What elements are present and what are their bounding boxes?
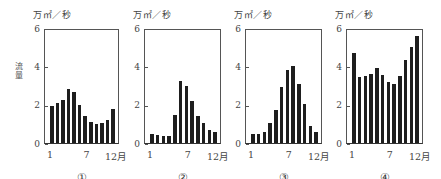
bar-month-7 [83, 116, 87, 143]
x-tick-label: 7 [387, 149, 393, 160]
x-tick-label: 12月 [207, 149, 229, 163]
x-tick-label: 1 [147, 149, 153, 160]
bar-month-3 [61, 100, 65, 143]
bar-month-9 [196, 116, 200, 143]
bar-month-8 [190, 101, 194, 143]
y-tick-label: 6 [229, 25, 241, 34]
bar-group [352, 30, 419, 143]
plot-area [44, 29, 119, 144]
bar-month-1 [352, 53, 356, 143]
bar-month-11 [309, 126, 313, 143]
bar-month-3 [263, 132, 267, 143]
bar-month-10 [404, 60, 408, 143]
bar-month-7 [185, 86, 189, 143]
y-tick-label: 0 [128, 140, 140, 149]
unit-label: 万㎡／秒 [335, 8, 373, 21]
bar-month-4 [268, 123, 272, 143]
y-tick-mark [246, 144, 249, 145]
bar-month-8 [392, 84, 396, 144]
bar-month-9 [398, 76, 402, 143]
y-tick-label: 4 [330, 63, 342, 72]
y-tick-label: 2 [28, 101, 40, 110]
unit-label: 万㎡／秒 [234, 8, 272, 21]
y-tick-mark [45, 144, 48, 145]
bar-month-2 [56, 103, 60, 143]
bar-month-5 [72, 92, 76, 143]
y-tick-mark [347, 144, 350, 145]
unit-label: 万㎡／秒 [133, 8, 171, 21]
panel-number: ① [77, 171, 87, 179]
y-tick-label: 2 [229, 101, 241, 110]
bar-month-2 [358, 77, 362, 143]
y-tick-label: 2 [128, 101, 140, 110]
y-tick-label: 4 [128, 63, 140, 72]
bar-month-12 [111, 109, 115, 143]
bar-month-6 [179, 81, 183, 143]
bar-month-9 [297, 84, 301, 143]
bar-month-6 [381, 75, 385, 143]
y-tick-label: 6 [28, 25, 40, 34]
bar-month-11 [208, 130, 212, 143]
bar-month-7 [286, 70, 290, 143]
bar-month-12 [314, 132, 318, 143]
y-tick-label: 6 [128, 25, 140, 34]
bar-month-4 [369, 74, 373, 143]
x-tick-label: 7 [286, 149, 292, 160]
y-tick-label: 4 [229, 63, 241, 72]
bar-month-5 [375, 68, 379, 143]
bar-month-6 [78, 105, 82, 143]
bar-month-5 [274, 110, 278, 143]
x-tick-label: 7 [185, 149, 191, 160]
bar-month-10 [100, 123, 104, 143]
bar-group [50, 30, 115, 143]
x-tick-label: 1 [47, 149, 53, 160]
bar-month-10 [303, 104, 307, 143]
x-tick-label: 7 [84, 149, 90, 160]
bar-month-2 [156, 135, 160, 143]
bar-month-12 [213, 132, 217, 143]
y-tick-label: 6 [330, 25, 342, 34]
bar-month-4 [167, 136, 171, 143]
bar-month-11 [106, 120, 110, 143]
plot-area [346, 29, 423, 144]
y-tick-label: 0 [28, 140, 40, 149]
y-tick-label: 4 [28, 63, 40, 72]
plot-area [144, 29, 221, 144]
panel-number: ③ [279, 171, 289, 179]
bar-month-7 [387, 82, 391, 143]
bar-month-9 [95, 124, 99, 143]
y-tick-label: 0 [229, 140, 241, 149]
bar-month-2 [257, 134, 261, 143]
bar-month-12 [415, 36, 419, 143]
x-tick-label: 12月 [409, 149, 431, 163]
plot-area [245, 29, 322, 144]
bar-group [251, 30, 318, 143]
y-axis-title: 流量 [15, 62, 24, 80]
y-tick-label: 0 [330, 140, 342, 149]
panel-number: ② [178, 171, 188, 179]
bar-month-8 [89, 122, 93, 143]
bar-month-3 [364, 76, 368, 143]
bar-month-1 [150, 134, 154, 143]
bar-group [150, 30, 217, 143]
x-tick-label: 1 [349, 149, 355, 160]
bar-month-10 [202, 123, 206, 143]
bar-month-6 [280, 87, 284, 144]
x-tick-label: 1 [248, 149, 254, 160]
bar-month-1 [50, 106, 54, 143]
x-tick-label: 12月 [105, 149, 127, 163]
panel-number: ④ [380, 171, 390, 179]
unit-label: 万㎡／秒 [33, 8, 71, 21]
y-tick-mark [145, 144, 148, 145]
bar-month-5 [173, 115, 177, 143]
bar-month-8 [291, 66, 295, 143]
y-tick-label: 2 [330, 101, 342, 110]
bar-month-4 [67, 89, 71, 143]
x-tick-label: 12月 [308, 149, 330, 163]
bar-month-3 [162, 136, 166, 143]
bar-month-1 [251, 134, 255, 143]
bar-month-11 [410, 47, 414, 143]
